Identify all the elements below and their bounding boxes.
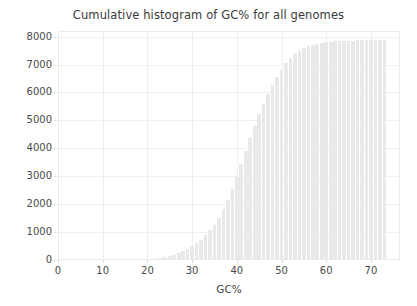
x-axis-label: GC% [58, 283, 400, 295]
x-tick-mark [192, 260, 193, 263]
y-tick-label: 8000 [4, 32, 52, 42]
bar [262, 104, 266, 260]
y-tick-mark [54, 176, 57, 177]
bar [284, 63, 288, 260]
x-tick-mark [282, 260, 283, 263]
bar [342, 41, 346, 260]
bar [132, 260, 136, 261]
bar [298, 51, 302, 260]
bar [356, 40, 360, 260]
x-axis-tick-labels: 010203040506070 [58, 266, 400, 280]
x-tick-mark [58, 260, 59, 263]
bar [374, 40, 378, 260]
x-tick-label: 70 [351, 266, 391, 276]
x-tick-label: 0 [38, 266, 78, 276]
bar [365, 40, 369, 260]
plot-area [58, 31, 400, 260]
bar [275, 77, 279, 260]
bar [271, 85, 275, 260]
x-tick-mark [326, 260, 327, 263]
bar [383, 40, 387, 260]
bar [177, 253, 181, 260]
y-axis-tick-labels: 010002000300040005000600070008000 [0, 31, 52, 260]
bar [235, 177, 239, 260]
y-tick-label: 7000 [4, 60, 52, 70]
bar [266, 94, 270, 260]
bar [280, 70, 284, 260]
bar [333, 41, 337, 260]
bar [181, 251, 185, 260]
y-tick-mark [54, 232, 57, 233]
bar-series [58, 31, 400, 260]
bar [168, 256, 172, 260]
y-tick-label: 2000 [4, 199, 52, 209]
chart-title: Cumulative histogram of GC% for all geno… [0, 8, 417, 22]
x-tick-mark [237, 260, 238, 263]
x-tick-mark [147, 260, 148, 263]
bar [141, 259, 145, 260]
bar [222, 209, 226, 260]
x-tick-label: 50 [262, 266, 302, 276]
bar [378, 40, 382, 260]
y-tick-label: 4000 [4, 143, 52, 153]
x-tick-label: 30 [172, 266, 212, 276]
x-tick-label: 60 [306, 266, 346, 276]
bar [302, 48, 306, 260]
bar [369, 40, 373, 260]
bar [190, 246, 194, 260]
bar [293, 54, 297, 260]
bar [351, 41, 355, 260]
bar [137, 260, 141, 261]
y-tick-mark [54, 204, 57, 205]
y-tick-label: 6000 [4, 87, 52, 97]
bar [324, 42, 328, 260]
x-tick-label: 20 [127, 266, 167, 276]
y-tick-label: 0 [4, 255, 52, 265]
x-tick-label: 40 [217, 266, 257, 276]
bar [213, 225, 217, 260]
y-tick-mark [54, 65, 57, 66]
y-tick-label: 3000 [4, 171, 52, 181]
y-tick-mark [54, 37, 57, 38]
x-tick-mark [103, 260, 104, 263]
y-tick-label: 1000 [4, 227, 52, 237]
bar [199, 240, 203, 260]
bar [307, 46, 311, 260]
bar [172, 255, 176, 260]
bar [239, 164, 243, 260]
chart-figure: Cumulative histogram of GC% for all geno… [0, 0, 417, 306]
bar [231, 189, 235, 260]
bar [155, 258, 159, 260]
bar [186, 249, 190, 260]
bar [347, 41, 351, 260]
bar [338, 41, 342, 260]
bar [289, 58, 293, 260]
y-tick-mark [54, 120, 57, 121]
bar [208, 230, 212, 260]
y-tick-mark [54, 92, 57, 93]
bar [128, 260, 132, 261]
bar [244, 151, 248, 260]
y-tick-mark [54, 260, 57, 261]
bar [253, 126, 257, 260]
bar [315, 44, 319, 260]
bar [163, 257, 167, 260]
x-tick-mark [371, 260, 372, 263]
bar [311, 45, 315, 260]
y-tick-label: 5000 [4, 115, 52, 125]
bar [248, 138, 252, 260]
bar [195, 243, 199, 260]
bar [320, 43, 324, 260]
bar [329, 42, 333, 260]
bar [360, 40, 364, 260]
bar [150, 259, 154, 260]
y-tick-mark [54, 148, 57, 149]
x-tick-label: 10 [83, 266, 123, 276]
bar [159, 258, 163, 260]
bar [204, 235, 208, 260]
bar [257, 114, 261, 260]
bar [226, 200, 230, 260]
bar [217, 218, 221, 260]
